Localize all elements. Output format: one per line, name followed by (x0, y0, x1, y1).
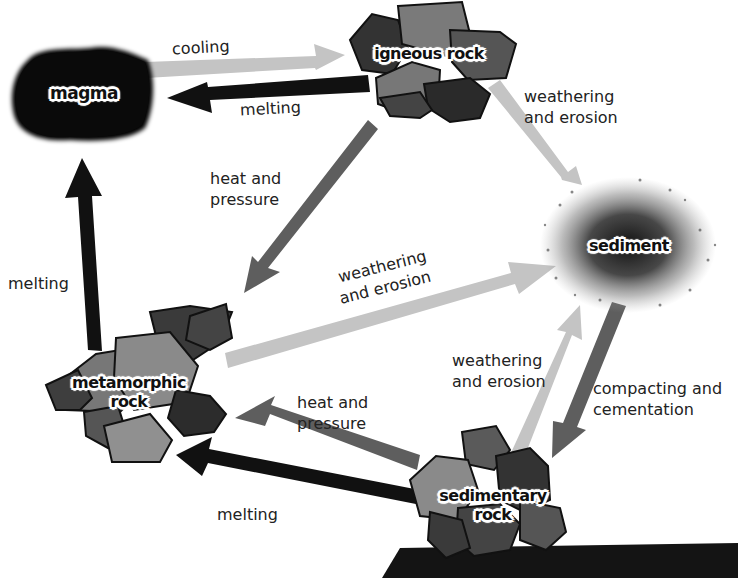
node-label-magma: magma (34, 84, 134, 103)
edge-label-melting-igneous-magma: melting (239, 96, 301, 120)
node-label-sedimentary-rock: sedimentary rock (428, 486, 558, 524)
edge-label-line: pressure (297, 413, 368, 434)
node-label-metamorphic-rock: metamorphic rock (64, 373, 194, 411)
edge-label-melting-sedimentary-metamorphic: melting (217, 504, 278, 525)
node-label-sedimentary-line2: rock (428, 505, 558, 524)
edge-label-cooling: cooling (171, 36, 230, 60)
edge-label-heat-pressure-sedimentary-metamorphic: heat and pressure (297, 392, 368, 434)
edge-label-line: cementation (593, 399, 722, 420)
edge-label-line: and erosion (452, 371, 546, 392)
node-label-metamorphic-line2: rock (64, 392, 194, 411)
edge-label-line: pressure (210, 189, 281, 210)
edge-label-compacting-cementation: compacting and cementation (593, 378, 722, 420)
edge-label-weathering-igneous-sediment: weathering and erosion (524, 86, 618, 128)
edge-label-line: heat and (297, 392, 368, 413)
node-label-sediment: sediment (574, 236, 684, 255)
edge-label-line: heat and (210, 168, 281, 189)
node-label-metamorphic-line1: metamorphic (64, 373, 194, 392)
edge-label-line: weathering (524, 86, 618, 107)
node-label-sedimentary-line1: sedimentary (428, 486, 558, 505)
arrow-melting-metamorphic-to-magma (65, 158, 102, 351)
edge-label-line: and erosion (524, 107, 618, 128)
edge-label-weathering-sedimentary-sediment: weathering and erosion (452, 350, 546, 392)
edge-label-line: compacting and (593, 378, 722, 399)
edge-label-melting-metamorphic-magma: melting (8, 273, 69, 294)
node-label-igneous-rock: igneous rock (364, 44, 494, 63)
edge-label-heat-pressure-igneous-metamorphic: heat and pressure (210, 168, 281, 210)
edge-label-line: weathering (452, 350, 546, 371)
rock-cycle-diagram: magma igneous rock sediment metamorphic … (0, 0, 738, 578)
